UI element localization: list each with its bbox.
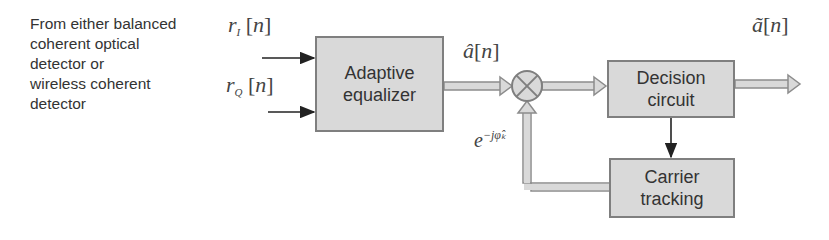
decision-circuit-block: Decision circuit: [607, 60, 735, 118]
multiplier-icon: [512, 71, 542, 101]
carrier-tracking-block: Carrier tracking: [609, 158, 735, 218]
decision-output-arrow: [735, 75, 800, 93]
equalizer-to-mixer-arrow: [444, 77, 512, 95]
adaptive-equalizer-block: Adaptive equalizer: [315, 36, 444, 132]
mixer-to-decision-arrow: [542, 77, 606, 95]
feedback-arrow: [518, 101, 609, 191]
